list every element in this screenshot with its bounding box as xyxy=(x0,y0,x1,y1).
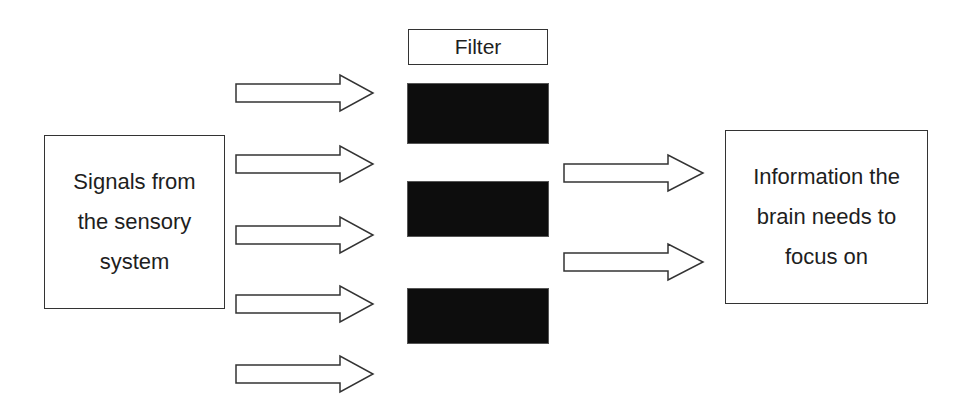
target-text-line-3: focus on xyxy=(785,237,868,277)
source-text-line-2: the sensory xyxy=(78,202,192,242)
filter-block-1 xyxy=(407,83,549,144)
source-text-line-3: system xyxy=(100,242,170,282)
output-arrow-1 xyxy=(564,155,703,191)
filter-label: Filter xyxy=(408,29,548,65)
input-arrow-4 xyxy=(236,286,373,322)
target-text-line-2: brain needs to xyxy=(757,197,896,237)
input-arrow-2 xyxy=(236,146,373,182)
source-text-line-1: Signals from xyxy=(73,162,195,202)
target-box: Information the brain needs to focus on xyxy=(725,130,928,304)
input-arrow-3 xyxy=(236,217,373,253)
input-arrow-5 xyxy=(236,356,373,392)
target-text-line-1: Information the xyxy=(753,157,900,197)
input-arrow-1 xyxy=(236,75,373,111)
output-arrow-2 xyxy=(564,244,703,280)
filter-block-3 xyxy=(407,288,549,344)
source-box: Signals from the sensory system xyxy=(44,135,225,309)
filter-block-2 xyxy=(407,181,549,237)
